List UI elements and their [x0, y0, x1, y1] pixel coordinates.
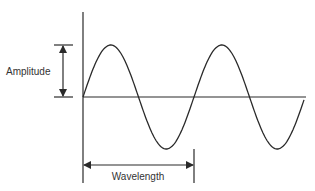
wavelength-label: Wavelength: [112, 171, 164, 182]
amplitude-label: Amplitude: [6, 66, 51, 77]
amplitude-indicator: [54, 45, 73, 97]
wave-diagram: Amplitude Wavelength: [0, 0, 315, 191]
